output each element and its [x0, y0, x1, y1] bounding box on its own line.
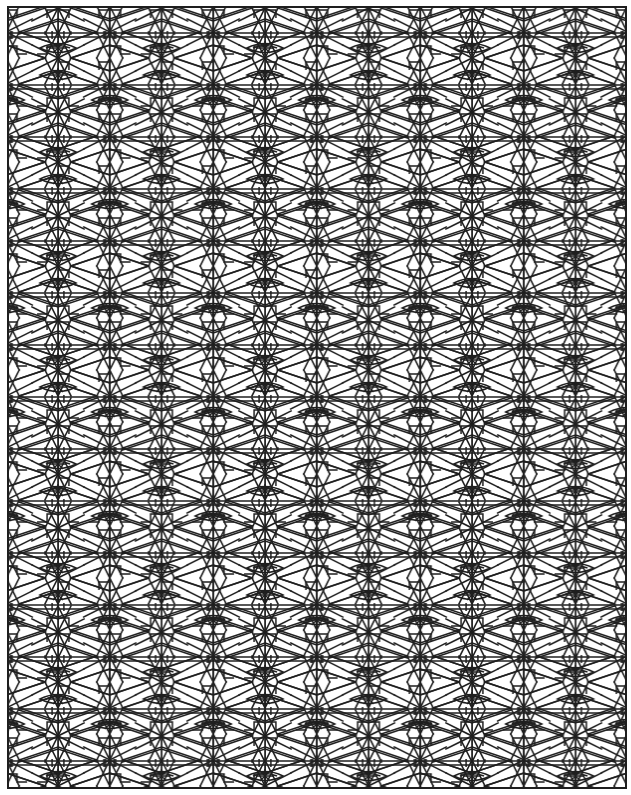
geometric-pattern-artwork — [0, 0, 631, 795]
pattern-fill — [8, 7, 626, 788]
